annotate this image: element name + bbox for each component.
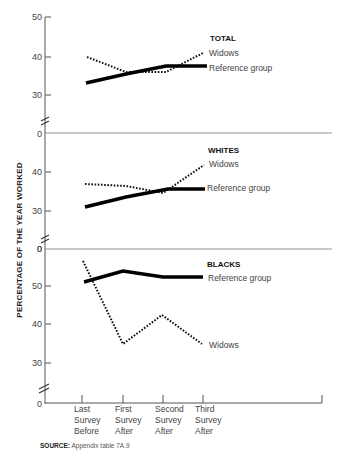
panel-whites: 40 30 0 WHITES Widows Reference group (32, 146, 332, 254)
reference-label: Reference group (209, 63, 273, 73)
chart-figure: PERCENTAGE OF THE YEAR WORKED 50 40 30 0… (0, 0, 345, 460)
x-label-line: Second (155, 404, 184, 414)
source-label: SOURCE: (40, 442, 70, 449)
x-axis-labels: Last Survey Before First Survey After Se… (74, 404, 222, 436)
x-label-line: Survey (74, 415, 101, 425)
x-label-line: After (155, 426, 173, 436)
tick-label: 40 (32, 319, 42, 329)
series-reference-whites (85, 189, 205, 207)
tick-label: 30 (32, 90, 42, 100)
widows-label: Widows (209, 340, 239, 350)
x-label-line: Survey (195, 415, 222, 425)
reference-label: Reference group (207, 183, 271, 193)
y-axis-label: PERCENTAGE OF THE YEAR WORKED (15, 162, 24, 317)
panel-total: 50 40 30 0 TOTAL Widows Reference group (32, 12, 332, 139)
widows-label: Widows (209, 159, 239, 169)
tick-label: 0 (37, 129, 42, 139)
source-text: Appendix table 7A.9 (71, 442, 129, 449)
axis-break-icon (39, 384, 49, 393)
series-reference-blacks (84, 271, 203, 282)
panel-title: TOTAL (210, 34, 236, 43)
panel-blacks: 0 50 40 30 0 BLACKS Reference group Wido… (32, 244, 322, 409)
tick-label: 40 (32, 167, 42, 177)
panel-title: WHITES (208, 146, 240, 155)
tick-label: 0 (37, 244, 42, 254)
x-label-line: Survey (155, 415, 182, 425)
tick-label: 30 (32, 358, 42, 368)
tick-label: 0 (37, 399, 42, 409)
source-note: SOURCE: Appendix table 7A.9 (40, 442, 130, 449)
x-label-line: After (115, 426, 133, 436)
tick-label: 30 (32, 206, 42, 216)
panel-title: BLACKS (207, 260, 241, 269)
series-reference-total (86, 66, 207, 83)
x-label-line: Before (74, 426, 99, 436)
x-label-line: Last (74, 404, 91, 414)
widows-label: Widows (209, 48, 239, 58)
tick-label: 50 (32, 281, 42, 291)
tick-label: 50 (32, 12, 42, 22)
x-label-line: Survey (115, 415, 142, 425)
reference-label: Reference group (208, 273, 272, 283)
x-label-line: Third (195, 404, 215, 414)
x-label-line: After (195, 426, 213, 436)
tick-label: 40 (32, 52, 42, 62)
x-label-line: First (115, 404, 132, 414)
